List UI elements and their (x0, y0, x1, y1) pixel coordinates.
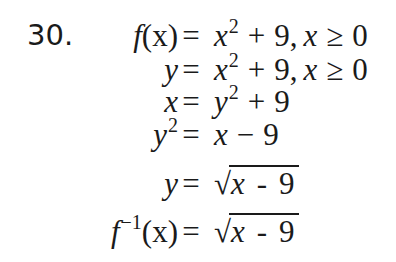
function-argument: (x) (142, 214, 178, 249)
lhs: y2 (153, 115, 178, 158)
equation-line-4: y2 = x−9 (0, 115, 396, 155)
variable: y (214, 84, 228, 119)
operator: - (257, 214, 267, 249)
lhs: f−1(x) (111, 212, 178, 255)
equation-line-5: y = √x-9 (0, 164, 396, 204)
constant: 9 (274, 84, 290, 119)
variable: y (164, 166, 178, 201)
variable: x (214, 18, 228, 53)
operator: − (237, 117, 254, 152)
exponent: 2 (229, 81, 239, 103)
variable: y (153, 117, 167, 152)
radicand: x-9 (229, 165, 299, 201)
exponent: 2 (229, 49, 239, 71)
operator: + (248, 18, 265, 53)
function-argument: (x) (142, 18, 178, 53)
variable: x (231, 166, 245, 201)
rhs: √x-9 (214, 212, 299, 252)
rhs: x−9 (214, 115, 279, 155)
equals-sign: = (181, 164, 201, 204)
function-name: f (111, 214, 120, 249)
constant: 9 (263, 117, 279, 152)
condition-variable: x (304, 18, 318, 53)
variable: x (214, 117, 228, 152)
condition-operator: ≥ (326, 18, 343, 53)
operator: - (257, 166, 267, 201)
function-name: f (133, 18, 142, 53)
square-root: √x-9 (214, 212, 299, 252)
constant: 9 (279, 214, 295, 249)
rhs: √x-9 (214, 164, 299, 204)
radicand: x-9 (229, 213, 299, 249)
inverse-exponent: −1 (121, 211, 142, 233)
condition-value: 0 (352, 18, 368, 53)
constant: 9 (279, 166, 295, 201)
equation-line-6: f−1(x) = √x-9 (0, 212, 396, 252)
constant: 9, (274, 18, 297, 53)
equals-sign: = (181, 115, 201, 155)
lhs: y (164, 164, 178, 204)
exponent: 2 (229, 15, 239, 37)
equals-sign: = (181, 212, 201, 252)
exponent: 2 (168, 114, 178, 136)
square-root: √x-9 (214, 164, 299, 204)
variable: x (231, 214, 245, 249)
operator: + (248, 84, 265, 119)
